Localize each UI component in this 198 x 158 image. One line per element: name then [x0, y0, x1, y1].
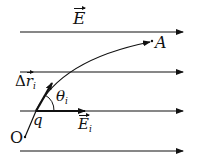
angle-arc: [45, 95, 54, 111]
origin-point: [24, 136, 26, 138]
point-a-label: A: [155, 35, 167, 51]
angle-label: θi: [56, 89, 68, 106]
origin-label: O: [10, 130, 23, 146]
displacement-label: Δri: [15, 74, 36, 91]
local-field-label: Ei: [78, 117, 92, 134]
field-label: E: [73, 10, 85, 27]
displacement-vector: [36, 83, 52, 111]
charge-label: q: [33, 113, 43, 128]
point-a: [151, 40, 153, 42]
